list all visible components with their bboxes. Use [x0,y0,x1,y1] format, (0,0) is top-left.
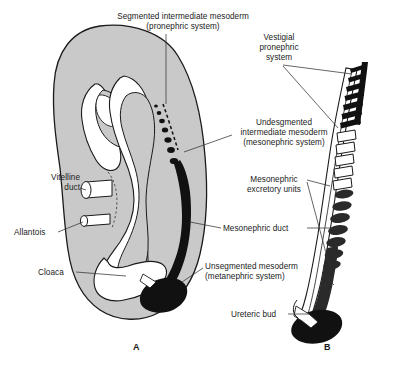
label-mesonephric-excretory-units: Mesonephric excretory units [236,175,312,195]
label-allantois: Allantois [14,228,60,238]
label-vestigial-pronephric-system: Vestigial pronephric system [248,33,310,64]
leader-vestigial-1 [283,65,352,74]
panel-b-nephric-system [291,62,368,344]
label-vitelline-duct: Vitelline duct [32,173,80,193]
vitelline-duct-structure [81,180,112,199]
label-mesonephric-duct: Mesonephric duct [223,224,305,234]
allantois-structure [80,214,110,226]
panel-letter-b: B [324,342,331,352]
label-unsegmented-mesoderm: Unsegmented mesoderm (metanephric system… [205,262,323,282]
label-cloaca: Cloaca [38,268,78,278]
panel-letter-a: A [133,342,140,352]
label-segmented-intermediate-mesoderm: Segmented intermediate mesoderm (proneph… [103,12,263,32]
label-undesgmented-intermediate-mesoderm: Undesgmented intermediate mesoderm (meso… [228,118,340,149]
label-ureteric-bud: Ureteric bud [231,310,293,320]
